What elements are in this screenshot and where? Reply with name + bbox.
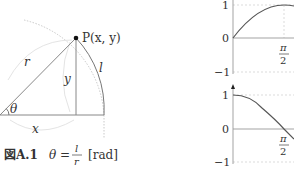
figure-caption: 図A.1 θ = l r [rad]: [4, 143, 118, 167]
xtick-2: 2: [280, 146, 286, 157]
ytick-m1: −1: [214, 66, 230, 79]
arc-l: [76, 38, 104, 115]
base-label: x: [32, 122, 39, 136]
ytick-m1: −1: [214, 156, 230, 169]
ytick-1: 1: [222, 0, 229, 12]
caption-theta: θ: [49, 148, 57, 162]
ytick-1: 1: [222, 89, 229, 102]
x-brace-arc: [10, 120, 74, 130]
cosine-chart: 1 0 −1 π 2: [214, 84, 294, 169]
ytick-0: 0: [222, 123, 229, 136]
figure-id: 図A.1: [4, 148, 38, 162]
xtick-pi: π: [279, 133, 287, 144]
xtick-2: 2: [280, 55, 286, 66]
figure-canvas: P(x, y) r y x l θ 図A.1 θ = l r [rad] 1 0…: [0, 0, 294, 174]
caption-unit: [rad]: [88, 148, 118, 162]
y-axis-arrow-icon: [231, 84, 235, 89]
sine-curve: [233, 5, 294, 38]
radius-label: r: [24, 55, 31, 69]
angle-arc: [6, 109, 9, 115]
unit-circle-diagram: P(x, y) r y x l θ: [0, 20, 121, 138]
angle-label: θ: [10, 102, 18, 116]
height-label: y: [63, 72, 71, 86]
caption-numerator: l: [75, 143, 78, 154]
ytick-0: 0: [222, 32, 229, 45]
xtick-pi: π: [279, 42, 287, 53]
sine-chart: 1 0 −1 π 2: [214, 0, 294, 79]
arc-label: l: [99, 61, 103, 75]
caption-equals: =: [60, 148, 70, 162]
point-p: [74, 36, 79, 41]
point-p-label: P(x, y): [82, 31, 121, 45]
caption-denominator: r: [74, 156, 80, 167]
